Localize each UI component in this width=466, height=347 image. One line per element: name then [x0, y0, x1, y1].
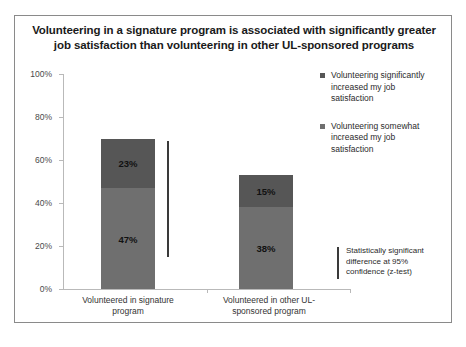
legend-label-significant-line-2: increased my job — [331, 82, 395, 92]
annotation-line-3: confidence (z-test) — [346, 267, 458, 278]
category-label-2-line-1: Volunteered in other UL- — [223, 295, 315, 305]
bar-value-label-15: 15% — [239, 186, 293, 197]
y-axis-label-60: 60% — [35, 155, 52, 165]
bar-segment-significant-1[interactable]: 23% — [101, 139, 155, 189]
y-tick-100: 100% — [59, 74, 64, 75]
significance-bracket-marker — [167, 141, 169, 257]
legend-label-significant-line-3: satisfaction — [331, 93, 374, 103]
x-axis-category-label-2: Volunteered in other UL- sponsored progr… — [211, 295, 327, 317]
legend-label-somewhat-line-3: satisfaction — [331, 144, 374, 154]
plot-area: 100% 80% 60% 40% 20% 0% 23% 47% — [63, 74, 351, 289]
legend-item-somewhat[interactable]: Volunteering somewhat increased my job s… — [320, 121, 448, 156]
bar-value-label-38: 38% — [239, 243, 293, 254]
y-tick-40: 40% — [59, 203, 64, 204]
y-axis-label-80: 80% — [35, 112, 52, 122]
bar-value-label-23: 23% — [101, 158, 155, 169]
significance-annotation: Statistically significant difference at … — [337, 246, 458, 278]
x-tick-separator-1 — [207, 289, 208, 293]
legend-swatch-icon-significant — [320, 73, 325, 78]
chart-legend: Volunteering significantly increased my … — [320, 70, 448, 171]
chart-frame: Volunteering in a signature program is a… — [14, 15, 452, 323]
y-tick-80: 80% — [59, 117, 64, 118]
category-label-1-line-2: program — [112, 306, 144, 316]
legend-label-somewhat-line-1: Volunteering somewhat — [331, 121, 419, 131]
x-axis-category-label-1: Volunteered in signature program — [73, 295, 183, 317]
chart-title-line-1: Volunteering in a signature program is a… — [25, 23, 443, 38]
legend-swatch-icon-somewhat — [320, 124, 325, 129]
y-tick-20: 20% — [59, 246, 64, 247]
y-axis-label-20: 20% — [35, 241, 52, 251]
bar-segment-significant-2[interactable]: 15% — [239, 175, 293, 207]
bar-segment-somewhat-1[interactable]: 47% — [101, 188, 155, 289]
bar-value-label-47: 47% — [101, 233, 155, 244]
bar-segment-somewhat-2[interactable]: 38% — [239, 207, 293, 289]
bar-column-signature[interactable]: 23% 47% — [101, 139, 155, 290]
annotation-line-2: difference at 95% — [346, 257, 458, 268]
legend-label-significant-line-1: Volunteering significantly — [331, 70, 425, 80]
y-axis-label-100: 100% — [30, 69, 52, 79]
x-tick-separator-2 — [350, 289, 351, 293]
y-axis-line — [63, 74, 64, 289]
category-label-2-line-2: sponsored program — [232, 306, 306, 316]
annotation-rule — [337, 247, 339, 279]
legend-label-somewhat-line-2: increased my job — [331, 132, 395, 142]
category-label-1-line-1: Volunteered in signature — [82, 295, 174, 305]
bar-column-other-program[interactable]: 15% 38% — [239, 175, 293, 289]
y-tick-0: 0% — [59, 289, 64, 290]
legend-item-significant[interactable]: Volunteering significantly increased my … — [320, 70, 448, 105]
y-tick-60: 60% — [59, 160, 64, 161]
chart-title-line-2: job satisfaction than volunteering in ot… — [25, 38, 443, 53]
annotation-line-1: Statistically significant — [346, 246, 458, 257]
y-axis-label-0: 0% — [40, 284, 52, 294]
y-axis-label-40: 40% — [35, 198, 52, 208]
chart-title: Volunteering in a signature program is a… — [25, 23, 443, 53]
